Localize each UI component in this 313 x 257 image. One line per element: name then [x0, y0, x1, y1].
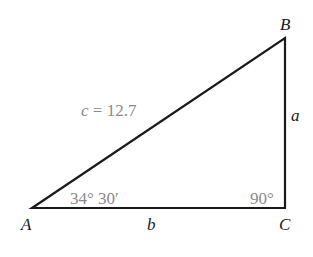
angle-a-label: 34° 30′: [70, 189, 119, 208]
side-label-b: b: [147, 215, 156, 234]
side-label-a: a: [291, 106, 300, 125]
triangle-abc: [32, 38, 285, 208]
hypotenuse-value: = 12.7: [93, 101, 137, 120]
vertex-label-c: C: [279, 215, 291, 234]
angle-c-label: 90°: [250, 189, 274, 208]
triangle-diagram: B A C b a c = 12.7 34° 30′ 90°: [0, 0, 313, 257]
hypotenuse-label: c = 12.7: [81, 101, 137, 120]
hypotenuse-var: c: [81, 101, 89, 120]
vertex-label-a: A: [20, 215, 32, 234]
vertex-label-b: B: [280, 15, 291, 34]
